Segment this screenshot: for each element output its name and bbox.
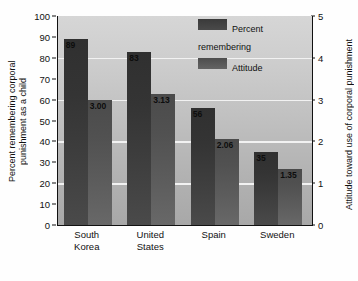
y-axis-left-ticks: 1009080706050403020100 (31, 16, 56, 225)
y-tick-label-left: 100 (34, 11, 50, 22)
y-tick-mark-left (52, 162, 56, 163)
y-tick-label-right: 0 (318, 220, 323, 231)
legend-label-attitude: Attitude (232, 63, 263, 73)
y-tick-label-left: 20 (39, 178, 50, 189)
y-tick-mark-left (52, 120, 56, 121)
bar-value-label: 1.35 (280, 171, 297, 180)
x-axis-category-label: United States (116, 229, 184, 252)
y-tick-label-left: 70 (39, 73, 50, 84)
y-axis-right-title: Attitude toward use of corporal punishme… (344, 16, 356, 232)
bar-value-label: 3.13 (153, 96, 170, 105)
bar-percent-remembering: 35 (254, 152, 278, 225)
bar-value-label: 56 (193, 110, 202, 119)
y-tick-label-left: 90 (39, 31, 50, 42)
bar-percent-remembering: 56 (191, 108, 215, 225)
bar-percent-remembering: 83 (127, 52, 151, 225)
y-tick-label-left: 50 (39, 115, 50, 126)
y-tick-label-right: 2 (318, 136, 323, 147)
y-axis-left-title: Percent remembering corporal punishment … (7, 26, 31, 216)
bar-value-label: 3.00 (90, 102, 107, 111)
legend-swatch-percent-remembering (198, 19, 227, 30)
bar-group: 833.13 (127, 16, 175, 225)
y-tick-label-left: 10 (39, 199, 50, 210)
x-axis-category-labels: South KoreaUnited StatesSpainSweden (57, 229, 311, 269)
bar-attitude: 3.00 (88, 100, 112, 225)
x-axis-category-label: Spain (180, 229, 248, 241)
y-tick-mark-left (52, 99, 56, 100)
bar-group: 893.00 (64, 16, 112, 225)
y-tick-label-right: 4 (318, 52, 323, 63)
bar-attitude: 3.13 (151, 94, 175, 225)
chart-legend: Percent remembering Attitude (198, 18, 310, 78)
y-tick-mark-left (52, 16, 56, 17)
bar-attitude: 2.06 (215, 139, 239, 225)
y-tick-label-right: 3 (318, 94, 323, 105)
y-tick-mark-left (52, 36, 56, 37)
y-tick-mark-left (52, 57, 56, 58)
legend-swatch-attitude (198, 58, 227, 69)
y-tick-mark-left (52, 204, 56, 205)
y-tick-label-left: 0 (45, 220, 50, 231)
bar-value-label: 35 (256, 154, 265, 163)
bar-value-label: 83 (129, 54, 138, 63)
y-axis-right-ticks: 543210 (311, 16, 329, 225)
y-tick-mark-left (52, 141, 56, 142)
y-tick-label-left: 40 (39, 136, 50, 147)
y-tick-mark-left (52, 225, 56, 226)
legend-item-percent-remembering: Percent remembering (198, 18, 310, 54)
y-tick-label-left: 60 (39, 94, 50, 105)
y-tick-label-right: 1 (318, 178, 323, 189)
chart-figure: Percent remembering corporal punishment … (0, 0, 358, 281)
y-tick-label-left: 80 (39, 52, 50, 63)
y-tick-mark-left (52, 78, 56, 79)
legend-item-attitude: Attitude (198, 57, 310, 75)
bar-attitude: 1.35 (278, 169, 302, 225)
y-tick-mark-left (52, 183, 56, 184)
x-axis-category-label: South Korea (53, 229, 121, 252)
bar-percent-remembering: 89 (64, 39, 88, 225)
bar-value-label: 2.06 (217, 141, 234, 150)
bar-value-label: 89 (66, 41, 75, 50)
y-tick-label-right: 5 (318, 11, 323, 22)
x-axis-category-label: Sweden (243, 229, 311, 241)
y-tick-label-left: 30 (39, 157, 50, 168)
